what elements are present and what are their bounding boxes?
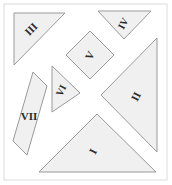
tangram-piece-vi[interactable]: VI — [52, 66, 80, 112]
tangram-piece-iv[interactable]: IV — [98, 11, 151, 39]
tangram-piece-v[interactable]: V — [66, 31, 114, 79]
piece-outline-iii[interactable] — [14, 13, 65, 65]
tangram-piece-iii[interactable]: III — [14, 13, 65, 65]
tangram-figure: IIIIIIIVVVIVII — [0, 0, 172, 185]
tangram-piece-vii[interactable]: VII — [13, 72, 47, 155]
tangram-canvas: IIIIIIIVVVIVII — [0, 0, 172, 185]
tangram-pieces-group: IIIIIIIVVVIVII — [13, 11, 157, 172]
piece-label-vii: VII — [21, 110, 38, 122]
